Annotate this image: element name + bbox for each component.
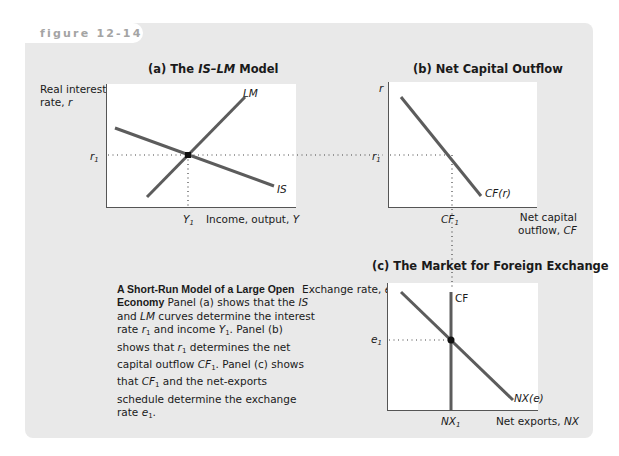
cf-r-curve xyxy=(401,97,481,196)
nx-e-curve xyxy=(401,292,513,400)
is-curve xyxy=(115,128,274,186)
lm-curve xyxy=(147,97,245,197)
equilibrium-point-a xyxy=(185,152,191,158)
figure-caption: A Short-Run Model of a Large Open Econom… xyxy=(117,283,317,424)
equilibrium-point-c xyxy=(448,337,455,344)
